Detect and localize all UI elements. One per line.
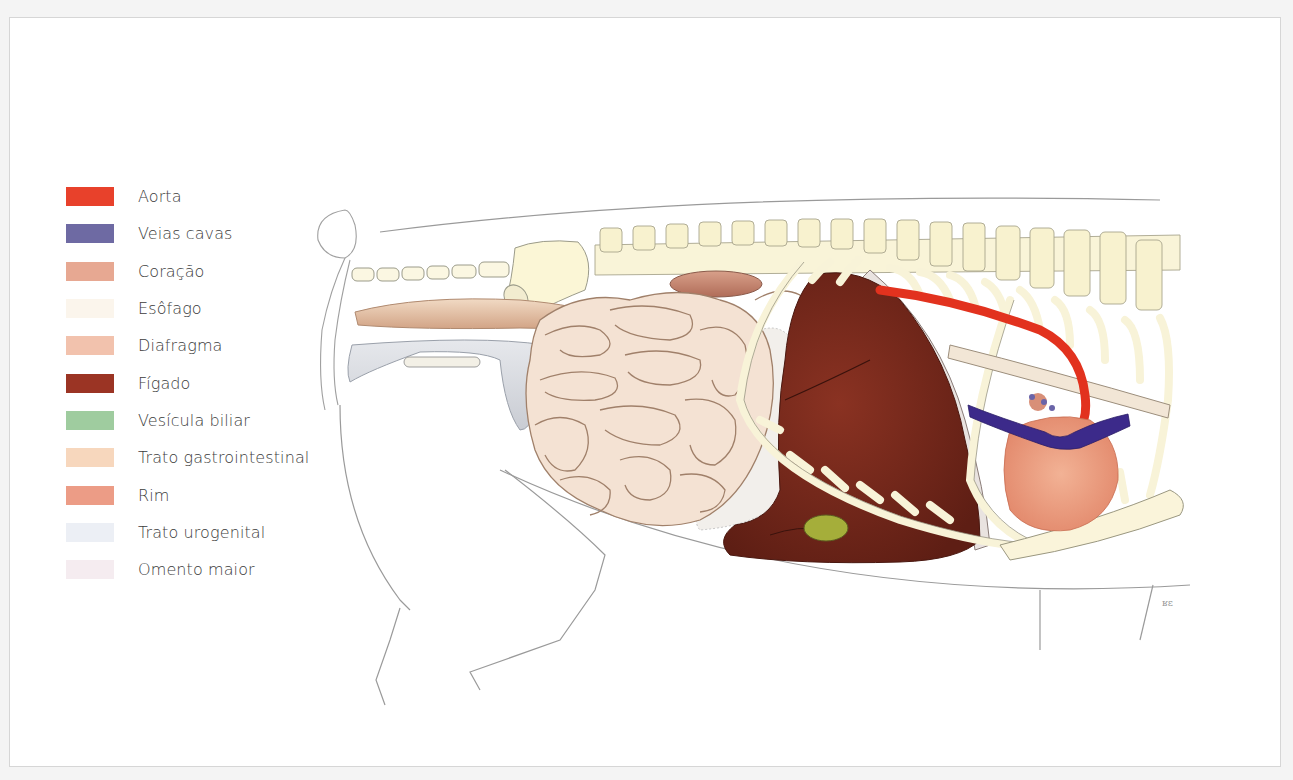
legend-label: Veias cavas [138,224,233,243]
heart-swatch [66,262,114,281]
legend-label: Diafragma [138,336,222,355]
legend-item-gi-tract: Trato gastrointestinal [66,439,316,476]
gi-tract-swatch [66,448,114,467]
esophagus-swatch [66,299,114,318]
legend-label: Vesícula biliar [138,411,250,430]
legend-label: Omento maior [138,560,255,579]
legend-item-gallbladder: Vesícula biliar [66,402,316,439]
urogenital-swatch [66,523,114,542]
legend-item-omentum: Omento maior [66,551,316,588]
legend-label: Coração [138,262,204,281]
legend-item-heart: Coração [66,253,316,290]
legend-item-vena-cava: Veias cavas [66,215,316,252]
kidney-swatch [66,486,114,505]
legend-label: Rim [138,486,169,505]
vena-cava-swatch [66,224,114,243]
legend-label: Aorta [138,187,182,206]
legend-item-liver: Fígado [66,364,316,401]
liver-swatch [66,374,114,393]
legend-label: Trato urogenital [138,523,265,542]
legend-label: Esôfago [138,299,202,318]
omentum-swatch [66,560,114,579]
legend: Aorta Veias cavas Coração Esôfago Diafra… [66,178,316,588]
legend-item-urogenital: Trato urogenital [66,514,316,551]
legend-label: Fígado [138,374,190,393]
diaphragm-swatch [66,336,114,355]
legend-item-aorta: Aorta [66,178,316,215]
legend-item-diaphragm: Diafragma [66,327,316,364]
aorta-swatch [66,187,114,206]
legend-item-esophagus: Esôfago [66,290,316,327]
legend-item-kidney: Rim [66,476,316,513]
gallbladder-swatch [66,411,114,430]
legend-label: Trato gastrointestinal [138,448,309,467]
